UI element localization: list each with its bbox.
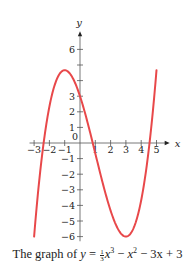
y-tick-label: −2 <box>61 169 75 180</box>
y-tick-label: −6 <box>61 231 75 242</box>
y-tick-label: −1 <box>61 153 75 164</box>
x-axis-label: x <box>175 138 181 149</box>
y-tick-label: −4 <box>61 200 75 211</box>
y-axis-arrow-icon <box>78 31 82 36</box>
axes <box>30 31 170 241</box>
frac-denominator: 3 <box>100 256 104 262</box>
y-tick-label: 1 <box>69 122 75 133</box>
x-tick-label: −2 <box>42 144 56 155</box>
x-tick-label: 5 <box>153 144 159 155</box>
caption-rest: − 3x + 3 <box>137 247 182 261</box>
x-tick-label: 4 <box>138 144 144 155</box>
x-tick-label: 3 <box>123 144 129 155</box>
y-tick-label: 6 <box>69 44 75 55</box>
y-tick-label: −3 <box>61 184 75 195</box>
x-tick-label: −3 <box>27 144 41 155</box>
y-tick-label: 3 <box>69 91 75 102</box>
y-tick-label: 2 <box>69 106 75 117</box>
caption-equals: = <box>86 247 99 261</box>
caption-minus: − <box>114 247 127 261</box>
caption-fraction: 13 <box>100 249 104 262</box>
tick-labels: xy−3−2−1012345−6−5−4−3−2−11236 <box>27 17 181 242</box>
y-tick-label: −5 <box>61 216 75 227</box>
x-axis-arrow-icon <box>165 141 170 145</box>
x-tick-label: 2 <box>108 144 114 155</box>
figure-caption: The graph of y = 13x3 − x2 − 3x + 3 <box>0 246 195 262</box>
caption-prefix: The graph of <box>13 247 81 261</box>
y-axis-label: y <box>75 17 82 28</box>
cubic-function-plot: xy−3−2−1012345−6−5−4−3−2−11236 <box>0 0 195 246</box>
